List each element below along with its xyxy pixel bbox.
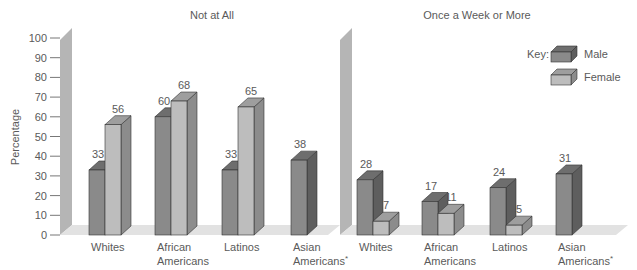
value-label: 24 [493,166,505,178]
category-label: Whites [91,241,125,253]
religious-attendance-chart: Not at All3356Whites6068AfricanAmericans… [0,0,637,270]
y-tick-label: 30 [35,170,47,182]
value-label: 28 [360,158,372,170]
bar-female [238,98,264,235]
y-axis: 0102030405060708090100Percentage [9,32,60,241]
y-tick-label: 40 [35,150,47,162]
value-label: 60 [158,95,170,107]
y-tick-label: 90 [35,52,47,64]
value-label: 5 [516,203,522,215]
category-label: Latinos [224,241,260,253]
category-label: AsianAmericans* [558,241,613,267]
value-label: 65 [245,85,257,97]
value-label: 33 [225,148,237,160]
category-label: AfricanAmericans [424,241,476,267]
value-label: 17 [425,180,437,192]
bar-male [291,151,317,235]
y-tick-label: 60 [35,111,47,123]
value-label: 7 [383,199,389,211]
panel-title: Once a Week or More [423,9,530,21]
value-label: 38 [294,138,306,150]
panel-title: Not at All [190,9,234,21]
legend-label: Female [584,71,621,83]
y-tick-label: 50 [35,131,47,143]
category-label: AsianAmericans* [293,241,348,267]
back-wall [340,28,352,235]
panel-not-at-all: Not at All3356Whites6068AfricanAmericans… [60,9,348,267]
y-tick-label: 80 [35,71,47,83]
bar-male [556,165,582,235]
legend-label: Male [584,48,608,60]
y-tick-label: 20 [35,190,47,202]
value-label: 68 [178,79,190,91]
y-tick-label: 10 [35,209,47,221]
y-tick-label: 100 [29,32,47,44]
y-axis-label: Percentage [9,109,21,165]
category-label: Latinos [492,241,528,253]
bar-female [171,92,197,235]
value-label: 56 [112,103,124,115]
legend-swatch-male [551,46,577,62]
y-tick-label: 70 [35,91,47,103]
bar-female [105,116,131,235]
category-label: Whites [359,241,393,253]
category-label: AfricanAmericans [157,241,209,267]
value-label: 33 [92,148,104,160]
legend: Key:MaleFemale [527,46,621,85]
value-label: 11 [445,191,456,203]
legend-title: Key: [527,48,549,60]
back-wall [60,28,72,235]
value-label: 31 [559,152,571,164]
legend-swatch-female [551,69,577,85]
y-tick-label: 0 [41,229,47,241]
